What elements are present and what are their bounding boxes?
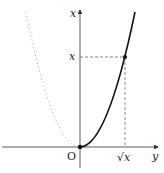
vertical-axis-label: x	[70, 7, 77, 20]
sqrt-curve	[80, 12, 135, 147]
point-base-label: √x	[117, 151, 131, 164]
sqrt-diagram: x x O √x y	[0, 0, 164, 173]
horizontal-axis-label: y	[151, 150, 159, 163]
origin-label: O	[67, 150, 76, 163]
origin-point	[78, 145, 82, 149]
curve-point	[123, 55, 127, 59]
point-height-label: x	[69, 50, 76, 63]
dotted-parabola-branch	[26, 12, 80, 147]
